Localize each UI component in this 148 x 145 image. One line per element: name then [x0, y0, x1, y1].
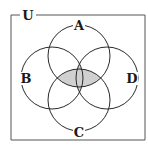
- universe-label: U: [22, 8, 34, 23]
- set-b-label: B: [21, 71, 32, 86]
- set-a-label: A: [73, 18, 85, 33]
- venn-diagram: U A B C D: [0, 0, 148, 145]
- venn-svg: U A B C D: [0, 0, 148, 145]
- set-c-label: C: [74, 125, 84, 140]
- set-d-label: D: [126, 71, 137, 86]
